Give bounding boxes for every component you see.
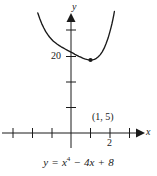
equation-minus: −	[73, 156, 81, 168]
equation-equals: =	[51, 156, 59, 168]
equation-plus: +	[97, 156, 105, 168]
vertex-marker-dot	[88, 58, 92, 62]
equation-lhs: y	[43, 156, 48, 168]
vertex-point-label: (1, 5)	[92, 112, 114, 122]
equation-exponent: 4	[67, 155, 71, 163]
graph-canvas	[0, 0, 157, 176]
x-axis-tick-label-2: 2	[107, 138, 112, 148]
x-axis-label: x	[146, 127, 150, 137]
equation-term3: 8	[108, 156, 114, 168]
y-axis-label: y	[72, 2, 76, 12]
equation-caption: y = x4 − 4x + 8	[0, 157, 157, 168]
equation-term2: 4x	[84, 156, 94, 168]
function-curve	[38, 12, 115, 61]
graph-figure: y x 20 2 (1, 5) y = x4 − 4x + 8	[0, 0, 157, 176]
y-axis-arrowhead	[67, 13, 76, 22]
x-axis-arrowhead	[136, 129, 145, 138]
y-axis-tick-label-20: 20	[51, 51, 61, 61]
